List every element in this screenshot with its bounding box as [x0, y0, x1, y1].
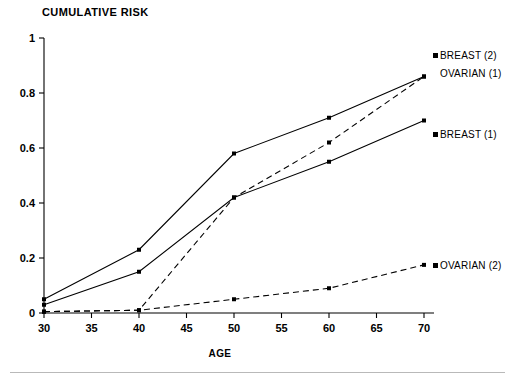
legend-marker	[433, 263, 438, 268]
data-point	[327, 141, 331, 145]
x-tick-30: 30	[38, 322, 50, 334]
legend-marker	[433, 132, 438, 137]
figure-bottom-rule	[10, 372, 505, 373]
series-label-breast-2: BREAST (2)	[440, 50, 497, 61]
data-point	[232, 297, 236, 301]
data-point	[327, 286, 331, 290]
y-tick-0.2: 0.2	[0, 252, 35, 264]
series-line-breast-1	[44, 121, 424, 305]
y-tick-0: 0	[0, 307, 35, 319]
series-line-ovarian-1	[44, 77, 424, 312]
series-label-breast-1: BREAST (1)	[440, 129, 497, 140]
y-tick-0.6: 0.6	[0, 142, 35, 154]
y-tick-0.4: 0.4	[0, 197, 35, 209]
series-label-ovarian-2: OVARIAN (2)	[440, 260, 501, 271]
data-point	[42, 303, 46, 307]
data-point	[327, 160, 331, 164]
x-tick-40: 40	[133, 322, 145, 334]
cumulative-risk-chart: CUMULATIVE RISK 0 0.2 0.4 0.6 0.8 1 30 3…	[0, 0, 515, 384]
data-point	[232, 152, 236, 156]
axes	[39, 38, 434, 318]
legend-leader-lines	[433, 53, 438, 268]
x-axis-label: AGE	[0, 348, 440, 359]
y-tick-0.8: 0.8	[0, 87, 35, 99]
plot-area	[0, 0, 515, 384]
x-tick-45: 45	[180, 322, 192, 334]
data-point	[137, 248, 141, 252]
x-tick-70: 70	[418, 322, 430, 334]
x-tick-65: 65	[370, 322, 382, 334]
data-point	[137, 270, 141, 274]
x-tick-50: 50	[228, 322, 240, 334]
data-point	[422, 119, 426, 123]
y-tick-1: 1	[0, 32, 35, 44]
data-point	[422, 263, 426, 267]
data-point	[232, 196, 236, 200]
data-point	[422, 75, 426, 79]
x-tick-35: 35	[85, 322, 97, 334]
data-point	[137, 308, 141, 312]
series-line-ovarian-2	[44, 265, 424, 312]
series-label-ovarian-1: OVARIAN (1)	[440, 68, 501, 79]
chart-title: CUMULATIVE RISK	[42, 6, 149, 18]
x-tick-60: 60	[323, 322, 335, 334]
x-tick-55: 55	[275, 322, 287, 334]
legend-marker	[433, 53, 438, 58]
data-point	[327, 116, 331, 120]
series-line-breast-2	[44, 77, 424, 300]
data-point	[42, 310, 46, 314]
data-point	[42, 297, 46, 301]
data-series	[42, 75, 426, 314]
